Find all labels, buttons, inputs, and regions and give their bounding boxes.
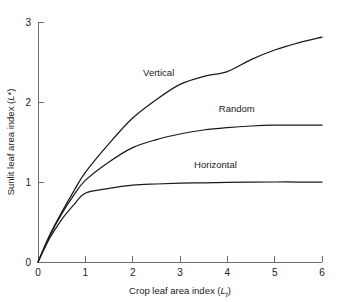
curve-label-vertical: Vertical bbox=[143, 67, 174, 78]
chart-figure: 0 1 2 3 4 5 6 0 1 2 3 Vertical Random Ho… bbox=[0, 0, 338, 302]
curve-random bbox=[38, 125, 322, 262]
y-tick-label-3: 3 bbox=[25, 17, 31, 28]
curve-vertical bbox=[38, 37, 322, 262]
y-axis-title-main: Sunlit leaf area index ( bbox=[5, 100, 16, 195]
x-tick-label-2: 2 bbox=[130, 267, 136, 278]
x-tick-label-6: 6 bbox=[319, 267, 325, 278]
x-axis-title-main: Crop leaf area index ( bbox=[129, 285, 221, 296]
x-axis-ticks bbox=[38, 256, 322, 262]
x-axis-title-close: ) bbox=[228, 285, 231, 296]
y-tick-label-1: 1 bbox=[25, 177, 31, 188]
y-axis-title-close: ) bbox=[5, 89, 16, 92]
x-tick-label-0: 0 bbox=[35, 267, 41, 278]
curve-label-random: Random bbox=[219, 103, 255, 114]
x-tick-label-1: 1 bbox=[83, 267, 89, 278]
x-tick-label-5: 5 bbox=[272, 267, 278, 278]
x-axis-title: Crop leaf area index (Lt) bbox=[129, 285, 231, 298]
line-chart: 0 1 2 3 4 5 6 0 1 2 3 Vertical Random Ho… bbox=[0, 0, 338, 302]
curve-label-horizontal: Horizontal bbox=[194, 159, 237, 170]
x-tick-label-4: 4 bbox=[225, 267, 231, 278]
y-tick-label-0: 0 bbox=[25, 257, 31, 268]
y-axis-ticks bbox=[38, 22, 44, 262]
curve-horizontal bbox=[38, 182, 322, 262]
y-tick-label-2: 2 bbox=[25, 97, 31, 108]
y-axis-title: Sunlit leaf area index (L*) bbox=[5, 89, 16, 196]
x-tick-label-3: 3 bbox=[177, 267, 183, 278]
